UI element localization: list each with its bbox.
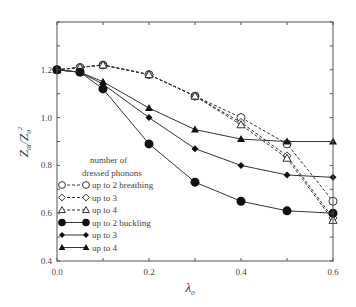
data-point-filled-circle-icon xyxy=(191,178,200,187)
legend-marker-icon xyxy=(83,232,89,238)
legend-label: up to 2 breathing xyxy=(92,180,154,190)
data-point-filled-circle-icon xyxy=(237,197,246,206)
y-tick-label: 0.6 xyxy=(41,208,53,218)
data-point-filled-diamond-icon xyxy=(284,171,291,178)
legend-item: up to 3 xyxy=(59,230,117,240)
series-5 xyxy=(53,66,337,145)
x-tick-label: 0.6 xyxy=(327,267,339,277)
legend-label: up to 3 xyxy=(92,230,118,240)
legend-label: up to 3 xyxy=(92,193,118,203)
legend-item: up to 4 xyxy=(59,205,118,215)
legend-marker-icon xyxy=(82,219,90,227)
data-point-filled-triangle-icon xyxy=(145,104,153,111)
legend-item: up to 3 xyxy=(59,193,118,203)
y-tick-label: 0.8 xyxy=(41,160,53,170)
legend-title: number of xyxy=(90,155,127,165)
legend-label: up to 4 xyxy=(92,243,118,253)
x-tick-label: 0.4 xyxy=(235,267,247,277)
data-point-filled-diamond-icon xyxy=(146,114,153,121)
legend-marker-icon xyxy=(59,182,66,189)
y-axis-label: Z0l/Z02 xyxy=(16,126,33,157)
legend-title: dressed phonons xyxy=(82,168,142,178)
legend-label: up to 2 buckling xyxy=(92,218,151,228)
x-tick-label: 0.0 xyxy=(51,267,63,277)
legend-item: up to 2 buckling xyxy=(58,218,151,228)
axis-ticks: 0.00.20.40.60.40.60.81.01.2 xyxy=(41,22,339,277)
chart: 0.00.20.40.60.40.60.81.01.2 number ofdre… xyxy=(0,0,356,307)
y-tick-label: 0.4 xyxy=(41,256,53,266)
x-axis-label: λ0 xyxy=(184,280,195,297)
legend-marker-icon xyxy=(83,182,90,189)
x-tick-label: 0.2 xyxy=(143,267,154,277)
y-tick-label: 1.2 xyxy=(41,65,52,75)
data-point-filled-diamond-icon xyxy=(192,145,199,152)
legend-item: up to 2 breathing xyxy=(59,180,154,190)
svg-text:Z0l/Z02: Z0l/Z02 xyxy=(16,126,33,157)
y-tick-label: 1.0 xyxy=(41,113,53,123)
data-point-filled-diamond-icon xyxy=(238,162,245,169)
data-point-filled-triangle-icon xyxy=(191,126,199,133)
legend: number ofdressed phononsup to 2 breathin… xyxy=(58,155,154,253)
legend-item: up to 4 xyxy=(59,243,118,253)
legend-marker-icon xyxy=(59,194,66,201)
legend-marker-icon xyxy=(83,194,90,201)
data-point-filled-circle-icon xyxy=(283,206,292,215)
legend-marker-icon xyxy=(58,219,66,227)
data-point-filled-circle-icon xyxy=(145,139,154,148)
data-point-filled-triangle-icon xyxy=(99,78,107,85)
legend-label: up to 4 xyxy=(92,205,118,215)
